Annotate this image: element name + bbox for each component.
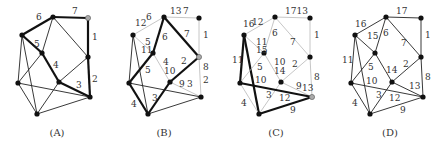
edge-label: 5 bbox=[368, 62, 374, 72]
edge-label: 17 bbox=[396, 6, 408, 16]
vertex bbox=[241, 32, 246, 37]
vertex bbox=[272, 14, 277, 19]
edge-label: 1 bbox=[425, 30, 431, 40]
edge-label: 11 bbox=[232, 55, 243, 65]
edge bbox=[421, 57, 423, 97]
edge-label: 3 bbox=[376, 90, 382, 100]
edge-label: 7 bbox=[184, 29, 190, 39]
vertex bbox=[348, 80, 353, 85]
edge-label: 10 bbox=[255, 75, 267, 85]
edge-label: 8 bbox=[425, 72, 431, 82]
edge-label: 1713 bbox=[285, 6, 308, 16]
edge-label: 9 bbox=[290, 105, 296, 115]
edge-label: 13 bbox=[409, 81, 421, 91]
edge-label: 3 bbox=[187, 79, 193, 89]
edge-label: 13 bbox=[170, 6, 182, 16]
vertex bbox=[196, 15, 201, 20]
vertex bbox=[309, 94, 314, 99]
vertex bbox=[85, 15, 90, 20]
vertex bbox=[15, 80, 20, 85]
edge-label: 2 bbox=[403, 59, 409, 69]
vertex bbox=[278, 79, 283, 84]
vertex bbox=[237, 80, 242, 85]
edge bbox=[164, 17, 199, 57]
edge bbox=[53, 17, 88, 18]
edge bbox=[386, 17, 421, 57]
edge-label: 12 bbox=[389, 93, 400, 103]
edge-label: 3 bbox=[266, 90, 272, 100]
vertex bbox=[307, 15, 312, 20]
edge-label: 11 bbox=[342, 55, 353, 65]
edge-label: 10 bbox=[366, 76, 378, 86]
edge bbox=[37, 97, 90, 114]
edge bbox=[386, 17, 421, 18]
panel-caption: (D) bbox=[382, 127, 398, 138]
vertex bbox=[50, 14, 55, 19]
edge-label: 3 bbox=[152, 93, 158, 103]
edge bbox=[53, 17, 88, 57]
edge-label: 7 bbox=[290, 37, 296, 47]
edge-label: 9 bbox=[400, 105, 406, 115]
graph-panel-d: 1716611571152148101331249(D) bbox=[342, 6, 431, 138]
edge-label: 3 bbox=[76, 80, 82, 90]
edge-label: 13 bbox=[302, 83, 314, 93]
vertex bbox=[418, 15, 423, 20]
edge-label: 1 bbox=[92, 32, 98, 42]
panel-caption: (A) bbox=[49, 127, 64, 138]
edge-label: 14 bbox=[274, 66, 286, 76]
edge-label: 7 bbox=[72, 6, 78, 16]
vertex bbox=[19, 32, 24, 37]
edge bbox=[18, 35, 22, 83]
vertex bbox=[383, 14, 388, 19]
edge-label: 1 bbox=[203, 30, 209, 40]
vertex bbox=[367, 111, 372, 116]
graph-figure: 7615432(A)13712667151141028593234(B)1713… bbox=[0, 0, 444, 148]
edge-label: 2 bbox=[181, 56, 187, 66]
edge-label: 6 bbox=[146, 12, 152, 22]
vertex bbox=[307, 54, 312, 59]
vertex bbox=[87, 94, 92, 99]
edge-label: 4 bbox=[53, 60, 59, 70]
edge-label: 14 bbox=[386, 65, 398, 75]
edge bbox=[170, 82, 201, 97]
vertex bbox=[167, 79, 172, 84]
edge-label: 6 bbox=[272, 28, 278, 38]
edge-label: 2 bbox=[203, 75, 209, 85]
vertex bbox=[85, 54, 90, 59]
edge-label: 5 bbox=[145, 65, 151, 75]
edge-label: 10 bbox=[164, 66, 176, 76]
graph-panel-a: 7615432(A) bbox=[15, 6, 97, 138]
edge-label: 12 bbox=[252, 17, 263, 27]
vertex bbox=[161, 14, 166, 19]
edge-label: 15 bbox=[367, 31, 379, 41]
edge bbox=[59, 82, 90, 97]
edge-label: 4 bbox=[131, 99, 137, 109]
edge-label: 5 bbox=[34, 39, 40, 49]
edge bbox=[37, 82, 59, 114]
edge-label: 16 bbox=[355, 19, 367, 29]
edge bbox=[59, 57, 88, 82]
vertex bbox=[56, 79, 61, 84]
edge-label: 4 bbox=[241, 98, 247, 108]
edge-label: 6 bbox=[162, 32, 168, 42]
edge bbox=[129, 35, 133, 83]
vertex bbox=[352, 32, 357, 37]
edge-label: 9 bbox=[179, 79, 185, 89]
edge bbox=[164, 17, 199, 18]
edge-label: 2 bbox=[92, 74, 98, 84]
vertex bbox=[389, 79, 394, 84]
vertex bbox=[198, 94, 203, 99]
edge-label: 8 bbox=[203, 62, 209, 72]
panel-caption: (B) bbox=[156, 127, 171, 138]
vertex bbox=[372, 50, 377, 55]
vertex bbox=[196, 54, 201, 59]
vertex bbox=[39, 50, 44, 55]
edge-label: 7 bbox=[401, 38, 407, 48]
edge-label: 8 bbox=[314, 72, 320, 82]
edge bbox=[275, 17, 310, 18]
edge-label: 4 bbox=[352, 98, 358, 108]
vertex bbox=[256, 111, 261, 116]
vertex bbox=[418, 54, 423, 59]
panel-caption: (C) bbox=[268, 127, 284, 138]
vertex bbox=[126, 80, 131, 85]
